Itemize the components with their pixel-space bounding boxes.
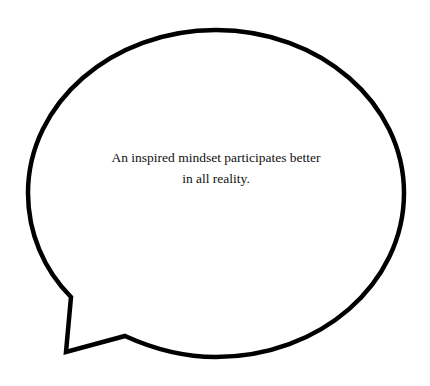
speech-bubble-outline [28,30,404,357]
quote-text: An inspired mindset participates better … [90,147,342,189]
quote-line-1: An inspired mindset participates better [90,147,342,168]
quote-line-2: in all reality. [90,168,342,189]
speech-bubble-shape [0,0,430,386]
